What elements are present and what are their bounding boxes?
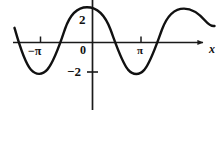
sine-curve <box>15 7 215 74</box>
x-axis-name-label: x <box>209 43 215 55</box>
graph-figure: 2 0 −2 −π π x <box>0 0 221 148</box>
plot-canvas <box>0 0 221 148</box>
y-axis-tick-label-2: 2 <box>79 13 86 26</box>
y-axis-tick-label-minus-2: −2 <box>67 65 81 78</box>
origin-label: 0 <box>80 44 86 56</box>
x-axis-tick-label-pi: π <box>137 45 143 56</box>
x-axis-tick-label-minus-pi: −π <box>28 45 41 57</box>
